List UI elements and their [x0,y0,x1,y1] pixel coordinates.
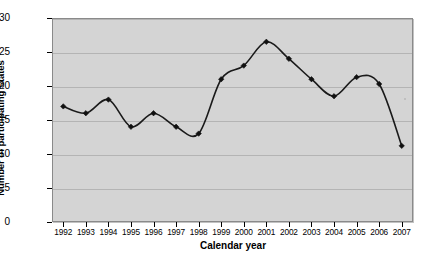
x-tick-mark [199,222,200,227]
x-tick-mark [357,222,358,227]
x-tick-label: 2002 [277,228,301,236]
x-tick-label: 2006 [367,228,391,236]
scan-speck [404,98,406,100]
x-tick-mark [131,222,132,227]
y-tick-label: 20 [0,81,10,91]
x-tick-label: 1993 [74,228,98,236]
plot-area [52,18,413,222]
x-tick-label: 2000 [232,228,256,236]
x-tick-mark [86,222,87,227]
x-tick-mark [221,222,222,227]
gridline [53,155,412,156]
x-tick-label: 1997 [164,228,188,236]
gridline [53,19,412,20]
x-tick-mark [311,222,312,227]
y-tick-mark [47,222,52,223]
y-tick-label: 15 [0,115,10,125]
y-tick-label: 10 [0,149,10,159]
x-tick-label: 1999 [209,228,233,236]
x-tick-label: 2007 [390,228,414,236]
x-tick-mark [176,222,177,227]
x-tick-mark [154,222,155,227]
x-tick-label: 1996 [142,228,166,236]
gridline [53,53,412,54]
x-tick-mark [379,222,380,227]
gridline [53,87,412,88]
line-chart-figure: Number of participating States 051015202… [0,0,428,256]
x-tick-mark [334,222,335,227]
gridline [53,189,412,190]
y-tick-label: 5 [0,183,10,193]
x-tick-mark [244,222,245,227]
gridline [53,121,412,122]
x-axis-title: Calendar year [52,240,414,251]
x-tick-label: 2003 [299,228,323,236]
x-tick-mark [289,222,290,227]
y-tick-label: 30 [0,13,10,23]
x-tick-label: 2005 [345,228,369,236]
x-tick-label: 2004 [322,228,346,236]
y-tick-label: 25 [0,47,10,57]
x-tick-mark [108,222,109,227]
x-tick-label: 1992 [51,228,75,236]
x-tick-label: 1995 [119,228,143,236]
x-tick-mark [63,222,64,227]
x-tick-mark [402,222,403,227]
y-tick-label: 0 [0,217,10,227]
x-tick-mark [266,222,267,227]
x-tick-label: 1998 [187,228,211,236]
x-tick-label: 2001 [254,228,278,236]
x-tick-label: 1994 [96,228,120,236]
